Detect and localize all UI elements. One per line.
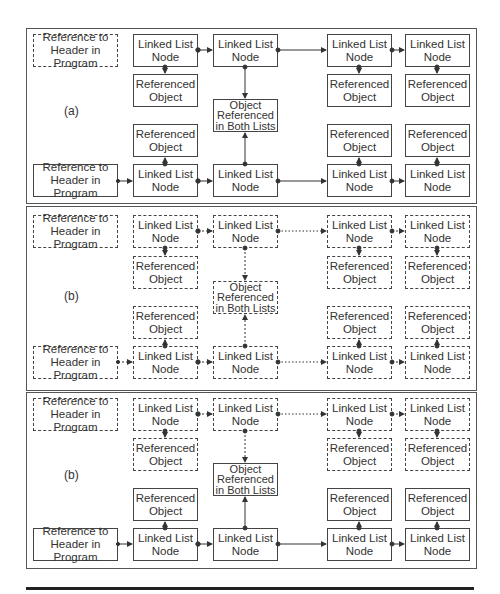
- list-node: Linked List Node: [405, 528, 470, 561]
- list-node: Linked List Node: [327, 215, 392, 248]
- list-node: Linked List Node: [327, 528, 392, 561]
- list-node: Linked List Node: [213, 164, 278, 197]
- referenced-object: Referenced Object: [405, 124, 470, 157]
- list-node: Linked List Node: [327, 346, 392, 379]
- referenced-object: Referenced Object: [133, 306, 198, 339]
- referenced-object: Referenced Object: [327, 306, 392, 339]
- header-reference-box: Reference to Header in Program: [33, 164, 118, 197]
- referenced-object: Referenced Object: [133, 124, 198, 157]
- shared-object: Object Referenced in Both Lists: [213, 99, 278, 132]
- referenced-object: Referenced Object: [405, 74, 470, 107]
- list-node: Linked List Node: [133, 164, 198, 197]
- referenced-object: Referenced Object: [327, 488, 392, 521]
- header-reference-box: Reference to Header in Program: [33, 528, 118, 561]
- list-node: Linked List Node: [405, 398, 470, 431]
- referenced-object: Referenced Object: [327, 74, 392, 107]
- list-node: Linked List Node: [133, 34, 198, 67]
- list-node: Linked List Node: [213, 346, 278, 379]
- list-node: Linked List Node: [327, 398, 392, 431]
- list-node: Linked List Node: [213, 34, 278, 67]
- referenced-object: Referenced Object: [405, 488, 470, 521]
- referenced-object: Referenced Object: [133, 74, 198, 107]
- referenced-object: Referenced Object: [133, 438, 198, 471]
- list-node: Linked List Node: [213, 528, 278, 561]
- shared-object: Object Referenced in Both Lists: [213, 281, 278, 314]
- header-reference-box: Reference to Header in Program: [33, 34, 118, 67]
- referenced-object: Referenced Object: [327, 256, 392, 289]
- panel-label: (a): [64, 104, 79, 118]
- list-node: Linked List Node: [133, 346, 198, 379]
- list-node: Linked List Node: [213, 398, 278, 431]
- list-node: Linked List Node: [405, 215, 470, 248]
- list-node: Linked List Node: [327, 164, 392, 197]
- header-reference-box: Reference to Header in Program: [33, 346, 118, 379]
- list-node: Linked List Node: [405, 164, 470, 197]
- panel-label: (b): [64, 468, 79, 482]
- list-node: Linked List Node: [133, 528, 198, 561]
- bottom-rule: [26, 587, 474, 590]
- referenced-object: Referenced Object: [327, 124, 392, 157]
- referenced-object: Referenced Object: [327, 438, 392, 471]
- list-node: Linked List Node: [133, 398, 198, 431]
- list-node: Linked List Node: [405, 34, 470, 67]
- list-node: Linked List Node: [133, 215, 198, 248]
- header-reference-box: Reference to Header in Program: [33, 398, 118, 431]
- referenced-object: Referenced Object: [405, 306, 470, 339]
- panel-label: (b): [64, 289, 79, 303]
- list-node: Linked List Node: [405, 346, 470, 379]
- referenced-object: Referenced Object: [405, 438, 470, 471]
- list-node: Linked List Node: [213, 215, 278, 248]
- referenced-object: Referenced Object: [133, 256, 198, 289]
- referenced-object: Referenced Object: [405, 256, 470, 289]
- referenced-object: Referenced Object: [133, 488, 198, 521]
- shared-object: Object Referenced in Both Lists: [213, 463, 278, 496]
- list-node: Linked List Node: [327, 34, 392, 67]
- header-reference-box: Reference to Header in Program: [33, 215, 118, 248]
